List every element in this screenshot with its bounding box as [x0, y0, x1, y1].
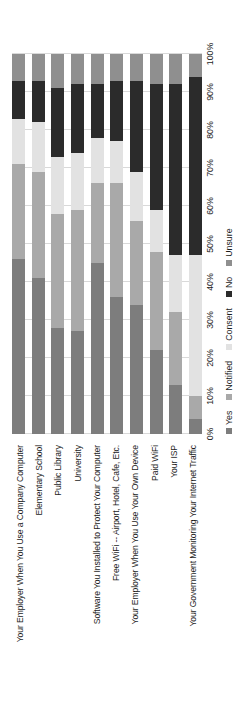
bar-segment-consent [189, 255, 202, 396]
legend-label: Notified [224, 361, 234, 391]
bar-segment-notified [150, 252, 163, 351]
bar-segment-notified [51, 214, 64, 328]
bar-segment-no [12, 81, 25, 119]
bar-segment-consent [110, 141, 123, 183]
category-label: University [70, 440, 87, 702]
bar-row [71, 54, 84, 434]
bar-segment-unsure [150, 54, 163, 84]
x-axis-tick-label: 70% [205, 159, 215, 177]
category-axis-labels: Your Employer When You Use a Company Com… [12, 440, 202, 702]
category-label: Your Employer When You Use Your Own Devi… [127, 440, 144, 702]
bar-row [32, 54, 45, 434]
bar-segment-unsure [91, 54, 104, 84]
bar-segment-yes [110, 297, 123, 434]
bar-segment-notified [110, 183, 123, 297]
bar-row [12, 54, 25, 434]
bar-segment-notified [169, 312, 182, 384]
bar-segment-notified [32, 172, 45, 278]
chart-legend: YesNotifiedConsentNoUnsure [222, 54, 235, 434]
legend-swatch-icon [226, 260, 232, 266]
bar-segment-yes [71, 331, 84, 434]
bar-segment-unsure [189, 54, 202, 77]
category-label: Your Government Monitoring Your Internet… [185, 440, 202, 702]
category-label: Paid WiFi [147, 440, 164, 702]
legend-label: No [224, 277, 234, 288]
bar-segment-consent [71, 153, 84, 210]
bar-row [169, 54, 182, 434]
category-label: Software You Installed to Protect Your C… [89, 440, 106, 702]
category-label: Public Library [50, 440, 67, 702]
bar-segment-consent [51, 157, 64, 214]
bar-segment-no [189, 77, 202, 256]
bar-segment-unsure [12, 54, 25, 81]
bar-segment-unsure [130, 54, 143, 81]
bar-segment-consent [169, 255, 182, 312]
bar-segment-yes [189, 419, 202, 434]
bar-segment-yes [32, 278, 45, 434]
x-axis-tick-label: 20% [205, 349, 215, 367]
bar-row [51, 54, 64, 434]
bar-segment-consent [91, 138, 104, 184]
bar-segment-no [169, 84, 182, 255]
bar-row [110, 54, 123, 434]
x-axis-tick-label: 90% [205, 83, 215, 101]
bar-segment-unsure [110, 54, 123, 81]
category-label: Free WiFi -- Airport, Hotel, Cafe, Etc. [108, 440, 125, 702]
bar-segment-no [150, 84, 163, 209]
stacked-bar-chart: Your Employer When You Use a Company Com… [0, 0, 235, 702]
bar-segment-consent [130, 172, 143, 221]
bar-segment-unsure [32, 54, 45, 81]
legend-item: No [224, 277, 234, 297]
bar-segment-notified [12, 164, 25, 259]
x-axis-tick-label: 10% [205, 387, 215, 405]
bar-row [189, 54, 202, 434]
bar-segment-notified [130, 221, 143, 305]
bar-segment-yes [91, 263, 104, 434]
rotated-figure-container: Your Employer When You Use a Company Com… [0, 0, 235, 702]
bar-segment-no [51, 88, 64, 156]
legend-swatch-icon [226, 291, 232, 297]
legend-item: Unsure [224, 228, 234, 265]
x-axis-tick-label: 40% [205, 273, 215, 291]
bar-segment-unsure [51, 54, 64, 88]
bar-segment-no [91, 84, 104, 137]
bar-segment-no [110, 81, 123, 142]
bar-segment-no [32, 81, 45, 123]
legend-label: Yes [224, 411, 234, 425]
bar-segment-notified [91, 183, 104, 263]
legend-label: Consent [224, 308, 234, 341]
legend-label: Unsure [224, 228, 234, 256]
legend-swatch-icon [226, 394, 232, 400]
bar-segment-unsure [169, 54, 182, 84]
bar-segment-yes [12, 259, 25, 434]
bar-segment-yes [51, 328, 64, 434]
bar-segment-no [130, 81, 143, 172]
bar-segment-consent [12, 119, 25, 165]
x-axis-tick-label: 80% [205, 121, 215, 139]
bar-segment-consent [32, 122, 45, 171]
bar-row [150, 54, 163, 434]
category-label: Your Employer When You Use a Company Com… [12, 440, 29, 702]
bar-row [91, 54, 104, 434]
bar-row [130, 54, 143, 434]
bar-segment-unsure [71, 54, 84, 84]
x-axis-ticks: 0%10%20%30%40%50%60%70%80%90%100% [205, 54, 219, 434]
plot-area [12, 54, 202, 434]
bar-segment-yes [169, 385, 182, 434]
x-axis-tick-label: 30% [205, 311, 215, 329]
bar-segment-notified [71, 210, 84, 332]
bar-segment-yes [150, 350, 163, 434]
legend-swatch-icon [226, 344, 232, 350]
bar-segment-notified [189, 396, 202, 419]
legend-item: Yes [224, 411, 234, 434]
x-axis-tick-label: 0% [205, 428, 215, 441]
bar-segment-yes [130, 305, 143, 434]
x-axis-tick-label: 50% [205, 235, 215, 253]
bar-segment-consent [150, 210, 163, 252]
legend-item: Consent [224, 308, 234, 350]
bar-segment-no [71, 84, 84, 152]
legend-item: Notified [224, 361, 234, 400]
x-axis-tick-label: 60% [205, 197, 215, 215]
category-label: Elementary School [31, 440, 48, 702]
bar-rows [12, 54, 202, 434]
